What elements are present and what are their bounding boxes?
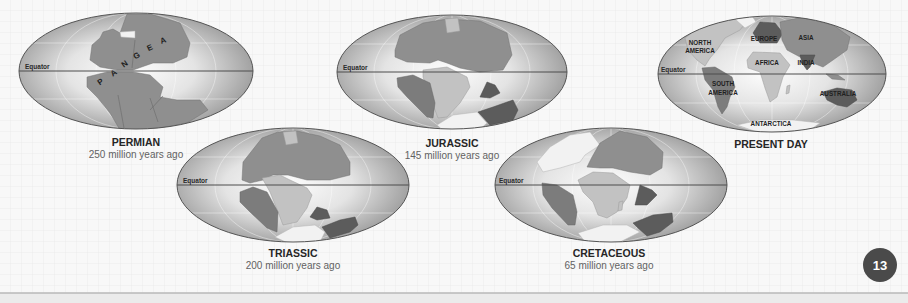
map-title: PERMIAN	[112, 136, 160, 148]
equator-label: Equator	[661, 66, 686, 74]
page-footer-band	[0, 293, 908, 303]
label-south-america: SOUTH	[712, 80, 734, 87]
map-title: TRIASSIC	[268, 247, 317, 259]
map-title: PRESENT DAY	[734, 138, 808, 150]
map-title: JURASSIC	[425, 137, 479, 149]
ice-patch	[445, 18, 460, 33]
map-title: CRETACEOUS	[573, 247, 646, 259]
map-age: 200 million years ago	[246, 260, 341, 271]
equator-label: Equator	[25, 63, 50, 71]
page-number: 13	[873, 258, 887, 273]
label-south-america: AMERICA	[708, 89, 738, 96]
map-age: 250 million years ago	[89, 149, 184, 160]
page-number-badge: 13	[863, 248, 897, 282]
madagascar	[618, 201, 623, 211]
label-australia: AUSTRALIA	[820, 90, 857, 97]
label-north-america: AMERICA	[685, 47, 715, 54]
label-europe: EUROPE	[751, 35, 778, 42]
continental-drift-figure: P A N G E A Equator PERMIAN 250 million …	[0, 0, 908, 303]
equator-label: Equator	[183, 177, 208, 185]
label-asia: ASIA	[798, 34, 813, 41]
map-age: 145 million years ago	[405, 150, 500, 161]
label-africa: AFRICA	[755, 59, 779, 66]
label-antarctica: ANTARCTICA	[751, 120, 792, 127]
equator-label: Equator	[343, 64, 368, 72]
label-north-america: NORTH	[689, 39, 712, 46]
label-india: INDIA	[797, 59, 815, 66]
ice-patch	[120, 31, 135, 38]
equator-label: Equator	[499, 177, 524, 185]
map-age: 65 million years ago	[565, 260, 654, 271]
